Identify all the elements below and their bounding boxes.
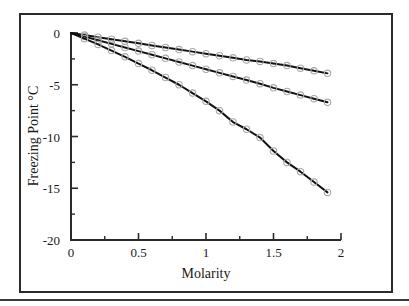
chart-axes (71, 33, 341, 240)
x-tick-label: 2 (338, 245, 345, 260)
data-series-group (71, 32, 331, 196)
x-tick-label: 1 (203, 245, 210, 260)
y-tick-label: -15 (43, 181, 60, 196)
y-axis-title: Freezing Point °C (26, 86, 41, 186)
figure-container: 00.511.52 0-5-10-15-20 Molarity Freezing… (0, 0, 409, 306)
y-tick-label: 0 (54, 26, 61, 41)
x-tick-label: 0 (68, 245, 75, 260)
y-tick-label: -5 (49, 78, 60, 93)
y-tick-label: -10 (43, 130, 60, 145)
freezing-point-chart: 00.511.52 0-5-10-15-20 Molarity Freezing… (0, 0, 409, 306)
y-axis-major-ticks (71, 33, 78, 240)
series-curve-lower (71, 33, 331, 196)
y-axis-tick-labels: 0-5-10-15-20 (43, 26, 60, 248)
y-tick-label: -20 (43, 233, 60, 248)
curve-lower-line (71, 33, 328, 192)
x-axis-title: Molarity (182, 266, 231, 281)
x-tick-label: 1.5 (265, 245, 281, 260)
series-curve-upper (71, 32, 331, 77)
x-tick-label: 0.5 (130, 245, 146, 260)
x-axis-major-ticks (71, 233, 341, 240)
axis-lines (71, 33, 341, 240)
series-curve-middle (71, 33, 331, 106)
x-axis-tick-labels: 00.511.52 (68, 245, 345, 260)
